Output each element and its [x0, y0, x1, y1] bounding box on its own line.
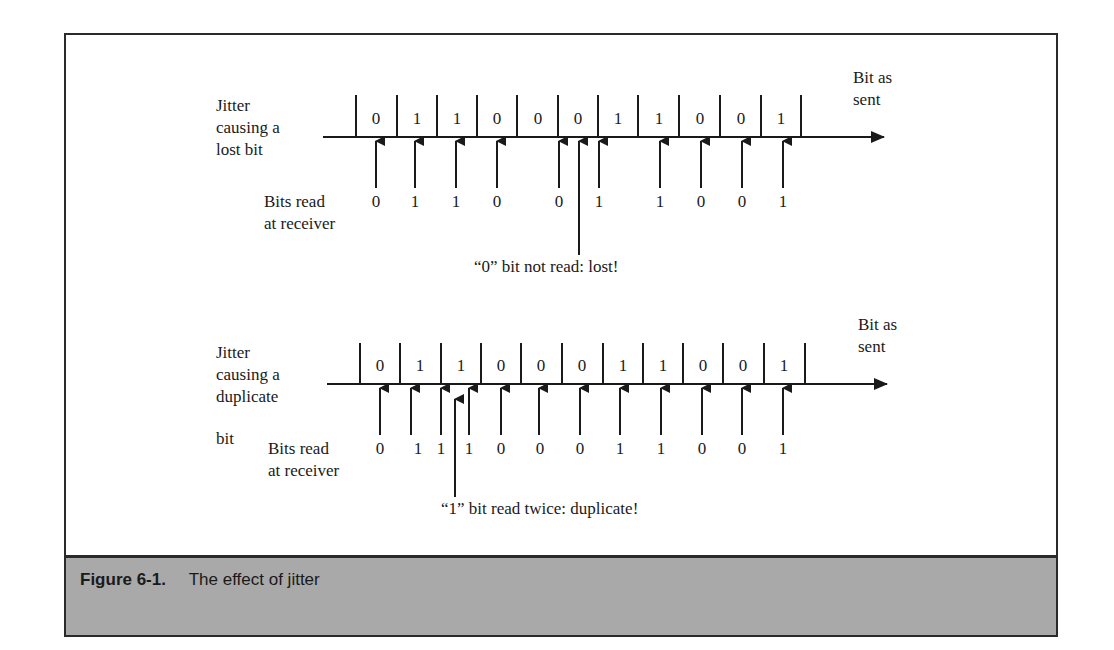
bit-sent: 0 — [497, 356, 506, 375]
bit-sent: 1 — [457, 356, 466, 375]
duplicate-bit-annotation: “1” bit read twice: duplicate! — [441, 499, 638, 518]
bit-sent: 0 — [739, 356, 748, 375]
bit-sent: 0 — [372, 109, 381, 128]
bit-read: 0 — [698, 439, 707, 458]
bits-read-row: 0 1 1 1 0 0 0 1 1 0 0 1 — [376, 439, 788, 458]
bit-read: 0 — [738, 192, 747, 211]
lost-bit-annotation: “0” bit not read: lost! — [474, 257, 618, 276]
bit-read: 1 — [779, 439, 788, 458]
axis-label-line: sent — [858, 337, 886, 356]
sample-arrows — [376, 141, 783, 255]
bit-sent: 1 — [655, 109, 664, 128]
bit-read: 0 — [493, 192, 502, 211]
bit-read: 0 — [576, 439, 585, 458]
bit-read: 0 — [536, 439, 545, 458]
side-label-line: causing a — [216, 365, 280, 384]
bit-sent: 1 — [777, 109, 786, 128]
bit-sent: 1 — [614, 109, 623, 128]
bit-sent: 0 — [578, 356, 587, 375]
bit-sent: 1 — [416, 356, 425, 375]
axis-label-line: Bit as — [858, 315, 897, 334]
bit-read: 1 — [452, 192, 461, 211]
bit-read: 1 — [465, 439, 474, 458]
bit-read: 0 — [697, 192, 706, 211]
bit-read: 1 — [616, 439, 625, 458]
side-label-line: bit — [216, 429, 234, 448]
receiver-label-line: Bits read — [268, 439, 329, 458]
receiver-label-line: Bits read — [264, 192, 325, 211]
bit-read: 1 — [411, 192, 420, 211]
bit-sent: 1 — [453, 109, 462, 128]
bit-sent: 1 — [780, 356, 789, 375]
panel-lost-bit: Jitter causing a lost bit Bit as sent 0 … — [216, 68, 892, 276]
bit-read: 1 — [779, 192, 788, 211]
side-label-line: lost bit — [216, 140, 263, 159]
bit-sent: 0 — [537, 356, 546, 375]
receiver-label-line: at receiver — [264, 214, 336, 233]
bit-read: 0 — [555, 192, 564, 211]
receiver-label-line: at receiver — [268, 461, 340, 480]
bit-read: 0 — [372, 192, 381, 211]
bits-sent-row: 0 1 1 0 0 0 1 1 0 0 1 — [372, 109, 786, 128]
jitter-diagram: Jitter causing a lost bit Bit as sent 0 … — [0, 0, 1114, 650]
bit-sent: 0 — [534, 109, 543, 128]
bit-read: 1 — [414, 439, 423, 458]
bit-sent: 1 — [413, 109, 422, 128]
axis-label-line: Bit as — [853, 68, 892, 87]
bit-sent: 0 — [699, 356, 708, 375]
axis-label-line: sent — [853, 90, 881, 109]
panel-duplicate-bit: Jitter causing a duplicate bit Bit as se… — [216, 315, 897, 518]
bit-read: 1 — [656, 192, 665, 211]
side-label-line: causing a — [216, 118, 280, 137]
bit-sent: 1 — [619, 356, 628, 375]
bit-sent: 0 — [493, 109, 502, 128]
side-label-line: Jitter — [216, 96, 250, 115]
bit-read: 0 — [497, 439, 506, 458]
bit-read: 0 — [738, 439, 747, 458]
bit-sent: 0 — [737, 109, 746, 128]
bit-sent: 0 — [696, 109, 705, 128]
bit-read: 1 — [657, 439, 666, 458]
bit-sent: 0 — [376, 356, 385, 375]
bit-read: 1 — [437, 439, 446, 458]
bit-read: 1 — [595, 192, 604, 211]
bit-sent: 0 — [574, 109, 583, 128]
side-label-line: duplicate — [216, 387, 278, 406]
bit-read: 0 — [376, 439, 385, 458]
bits-sent-row: 0 1 1 0 0 0 1 1 0 0 1 — [376, 356, 789, 375]
bit-sent: 1 — [659, 356, 668, 375]
side-label-line: Jitter — [216, 343, 250, 362]
